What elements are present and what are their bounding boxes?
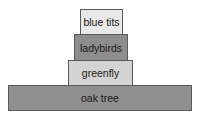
level-label: oak tree <box>81 92 119 104</box>
level-label: ladybirds <box>80 42 122 54</box>
pyramid-level-greenfly: greenfly <box>68 60 133 86</box>
level-label: blue tits <box>83 16 119 28</box>
pyramid-level-oak-tree: oak tree <box>8 85 192 111</box>
pyramid-level-ladybirds: ladybirds <box>74 34 128 61</box>
level-label: greenfly <box>82 67 119 79</box>
pyramid-level-blue-tits: blue tits <box>80 9 123 35</box>
